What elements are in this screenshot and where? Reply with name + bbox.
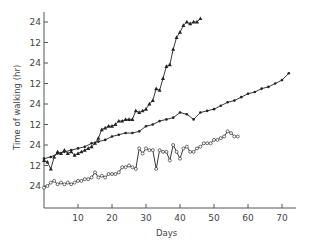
open-circle-marker: [151, 149, 154, 152]
dot-marker: [260, 87, 263, 90]
open-circle-marker: [179, 157, 182, 160]
open-circle-marker: [185, 145, 188, 148]
series-line: [44, 131, 238, 187]
dot-marker: [70, 149, 73, 152]
open-circle-marker: [202, 142, 205, 145]
triangle-marker: [96, 136, 100, 140]
dot-marker: [90, 142, 93, 145]
open-circle-marker: [46, 185, 49, 188]
dot-marker: [254, 91, 257, 94]
dot-marker: [192, 118, 195, 121]
open-circle-marker: [60, 181, 63, 184]
dot-marker: [281, 79, 284, 82]
series-group: [42, 16, 290, 189]
open-circle-marker: [168, 159, 171, 162]
open-circle-marker: [165, 150, 168, 153]
open-circle-marker: [158, 149, 161, 152]
open-circle-marker: [124, 166, 127, 169]
x-tick-label: 50: [208, 213, 220, 223]
open-circle-marker: [128, 164, 131, 167]
dot-marker: [158, 120, 161, 123]
open-circle-marker: [111, 173, 114, 176]
dot-marker: [43, 157, 46, 160]
x-ticks: 10203040506070: [72, 204, 288, 223]
x-tick-label: 30: [140, 213, 152, 223]
open-circle-marker: [53, 179, 56, 182]
triangle-marker: [168, 63, 172, 67]
series-filled-dots: [43, 72, 290, 160]
x-tick-label: 10: [72, 213, 84, 223]
open-circle-marker: [209, 142, 212, 145]
open-circle-marker: [90, 176, 93, 179]
open-circle-marker: [117, 171, 120, 174]
open-circle-marker: [145, 147, 148, 150]
dot-marker: [50, 156, 53, 159]
open-circle-marker: [148, 149, 151, 152]
dot-marker: [111, 135, 114, 138]
dot-marker: [233, 99, 236, 102]
open-circle-marker: [216, 138, 219, 141]
axes: [44, 12, 296, 208]
dot-marker: [274, 82, 277, 85]
dot-marker: [165, 118, 168, 121]
x-tick-label: 60: [242, 213, 254, 223]
dot-marker: [240, 96, 243, 99]
y-tick-label: 12: [30, 79, 41, 89]
open-circle-marker: [162, 150, 165, 153]
open-circle-marker: [114, 173, 117, 176]
open-circle-marker: [236, 135, 239, 138]
dot-marker: [220, 104, 223, 107]
open-circle-marker: [213, 138, 216, 141]
dot-marker: [77, 147, 80, 150]
triangle-marker: [134, 109, 138, 113]
triangle-marker: [49, 167, 53, 171]
dot-marker: [179, 111, 182, 114]
dot-marker: [206, 110, 209, 113]
open-circle-marker: [226, 130, 229, 133]
open-circle-marker: [97, 176, 100, 179]
dot-marker: [226, 101, 229, 104]
dot-marker: [267, 86, 270, 89]
open-circle-marker: [83, 178, 86, 181]
y-tick-label: 24: [30, 140, 42, 150]
open-circle-marker: [73, 181, 76, 184]
x-tick-label: 20: [106, 213, 118, 223]
open-circle-marker: [94, 171, 97, 174]
open-circle-marker: [43, 186, 46, 189]
dot-marker: [199, 111, 202, 114]
open-circle-marker: [230, 132, 233, 135]
series-triangles: [42, 16, 202, 170]
triangle-marker: [178, 30, 182, 34]
chart: 241224122412241224 10203040506070 Days T…: [0, 0, 312, 243]
open-circle-marker: [77, 179, 80, 182]
open-circle-marker: [172, 144, 175, 147]
open-circle-marker: [138, 147, 141, 150]
dot-marker: [152, 123, 155, 126]
dot-marker: [84, 145, 87, 148]
dot-marker: [56, 152, 59, 155]
x-axis-title: Days: [156, 228, 178, 238]
dot-marker: [131, 132, 134, 135]
series-line: [44, 19, 200, 169]
triangle-marker: [154, 86, 158, 90]
open-circle-marker: [134, 167, 137, 170]
open-circle-marker: [70, 183, 73, 186]
open-circle-marker: [223, 135, 226, 138]
open-circle-marker: [206, 142, 209, 145]
triangle-marker: [151, 98, 155, 102]
dot-marker: [104, 139, 107, 142]
dot-marker: [247, 92, 250, 95]
triangle-marker: [171, 47, 175, 51]
y-tick-label: 12: [30, 161, 41, 171]
open-circle-marker: [196, 147, 199, 150]
dot-marker: [145, 125, 148, 128]
dot-marker: [213, 108, 216, 111]
y-tick-label: 24: [30, 181, 42, 191]
x-tick-label: 40: [174, 213, 186, 223]
dot-marker: [288, 72, 291, 75]
open-circle-marker: [121, 166, 124, 169]
dot-marker: [186, 113, 189, 116]
open-circle-marker: [107, 173, 110, 176]
y-tick-label: 24: [30, 99, 42, 109]
dot-marker: [97, 140, 100, 143]
